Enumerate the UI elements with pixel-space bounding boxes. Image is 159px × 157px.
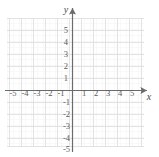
x-tick-label: -2 — [45, 88, 52, 98]
y-axis-label: y — [63, 4, 69, 15]
y-tick-label: -1 — [63, 97, 70, 107]
x-tick-labels-negative: -5 -4 -3 -2 -1 — [9, 88, 64, 98]
y-tick-label: 1 — [64, 73, 68, 83]
y-tick-label: 2 — [64, 61, 68, 71]
y-tick-label: -4 — [63, 133, 71, 143]
y-tick-labels-positive: 5 4 3 2 1 — [64, 25, 69, 83]
y-tick-labels-negative: -1 -2 -3 -4 -5 — [63, 97, 71, 154]
x-tick-label: -5 — [9, 88, 16, 98]
y-tick-label: 5 — [64, 25, 68, 35]
y-tick-label: -2 — [63, 109, 70, 119]
x-tick-label: 1 — [82, 88, 86, 98]
x-tick-label: 5 — [130, 88, 134, 98]
y-tick-label: -5 — [63, 144, 70, 154]
major-gridlines — [7, 18, 144, 147]
y-tick-label: 4 — [64, 37, 69, 47]
y-tick-label: 3 — [64, 49, 68, 59]
minor-gridlines — [7, 18, 144, 147]
x-tick-label: -4 — [21, 88, 29, 98]
x-tick-label: 3 — [106, 88, 110, 98]
x-tick-label: 2 — [94, 88, 98, 98]
y-tick-label: -3 — [63, 121, 70, 131]
coordinate-grid-svg: -5 -4 -3 -2 -1 1 2 3 4 5 5 4 3 2 1 -1 -2… — [0, 0, 159, 157]
x-axis-label: x — [146, 91, 152, 102]
x-tick-label: -3 — [33, 88, 40, 98]
coordinate-plane-figure: -5 -4 -3 -2 -1 1 2 3 4 5 5 4 3 2 1 -1 -2… — [0, 0, 159, 157]
x-tick-label: 4 — [118, 88, 123, 98]
